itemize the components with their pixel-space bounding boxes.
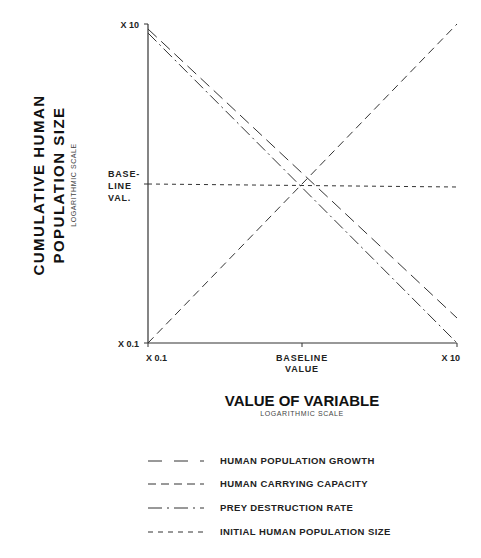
x-tick-label-left: X 0.1 (146, 353, 167, 363)
y-axis-title-line1: CUMULATIVE HUMAN (30, 94, 47, 275)
y-axis-subtitle: LOGARITHMIC SCALE (70, 143, 77, 227)
legend-short-dash-icon (148, 529, 204, 535)
y-tick-label-mid-2: LINE (108, 181, 132, 191)
legend-label: HUMAN POPULATION GROWTH (220, 455, 375, 466)
y-tick-label-bottom: X 0.1 (118, 339, 139, 349)
legend-item-initial-human-population-size: INITIAL HUMAN POPULATION SIZE (148, 526, 478, 542)
legend-item-human-carrying-capacity: HUMAN CARRYING CAPACITY (148, 478, 478, 494)
series-prey-destruction-rate (148, 33, 457, 343)
legend-long-dash-icon (148, 458, 204, 464)
legend-dash-dot-icon (148, 505, 204, 511)
legend-dash-icon (148, 481, 204, 487)
series-initial-human-population-size (148, 184, 457, 187)
x-tick-label-right: X 10 (441, 353, 460, 363)
x-axis-subtitle: LOGARITHMIC SCALE (260, 410, 344, 417)
x-tick-label-mid-1: BASELINE (276, 353, 328, 363)
legend-item-prey-destruction-rate: PREY DESTRUCTION RATE (148, 502, 478, 518)
legend-label: INITIAL HUMAN POPULATION SIZE (220, 526, 391, 537)
x-tick-label-mid-2: VALUE (285, 364, 319, 374)
y-axis-title-line2: POPULATION SIZE (50, 106, 67, 263)
y-tick-label-top: X 10 (120, 20, 139, 30)
x-axis-title: VALUE OF VARIABLE (225, 392, 379, 409)
legend-label: PREY DESTRUCTION RATE (220, 502, 353, 513)
y-tick-label-mid-3: VAL. (108, 193, 131, 203)
legend-item-human-population-growth: HUMAN POPULATION GROWTH (148, 455, 478, 471)
chart-canvas: X 10 BASE- LINE VAL. X 0.1 X 0.1 BASELIN… (0, 0, 481, 440)
legend-label: HUMAN CARRYING CAPACITY (220, 478, 368, 489)
y-tick-label-mid-1: BASE- (108, 169, 140, 179)
